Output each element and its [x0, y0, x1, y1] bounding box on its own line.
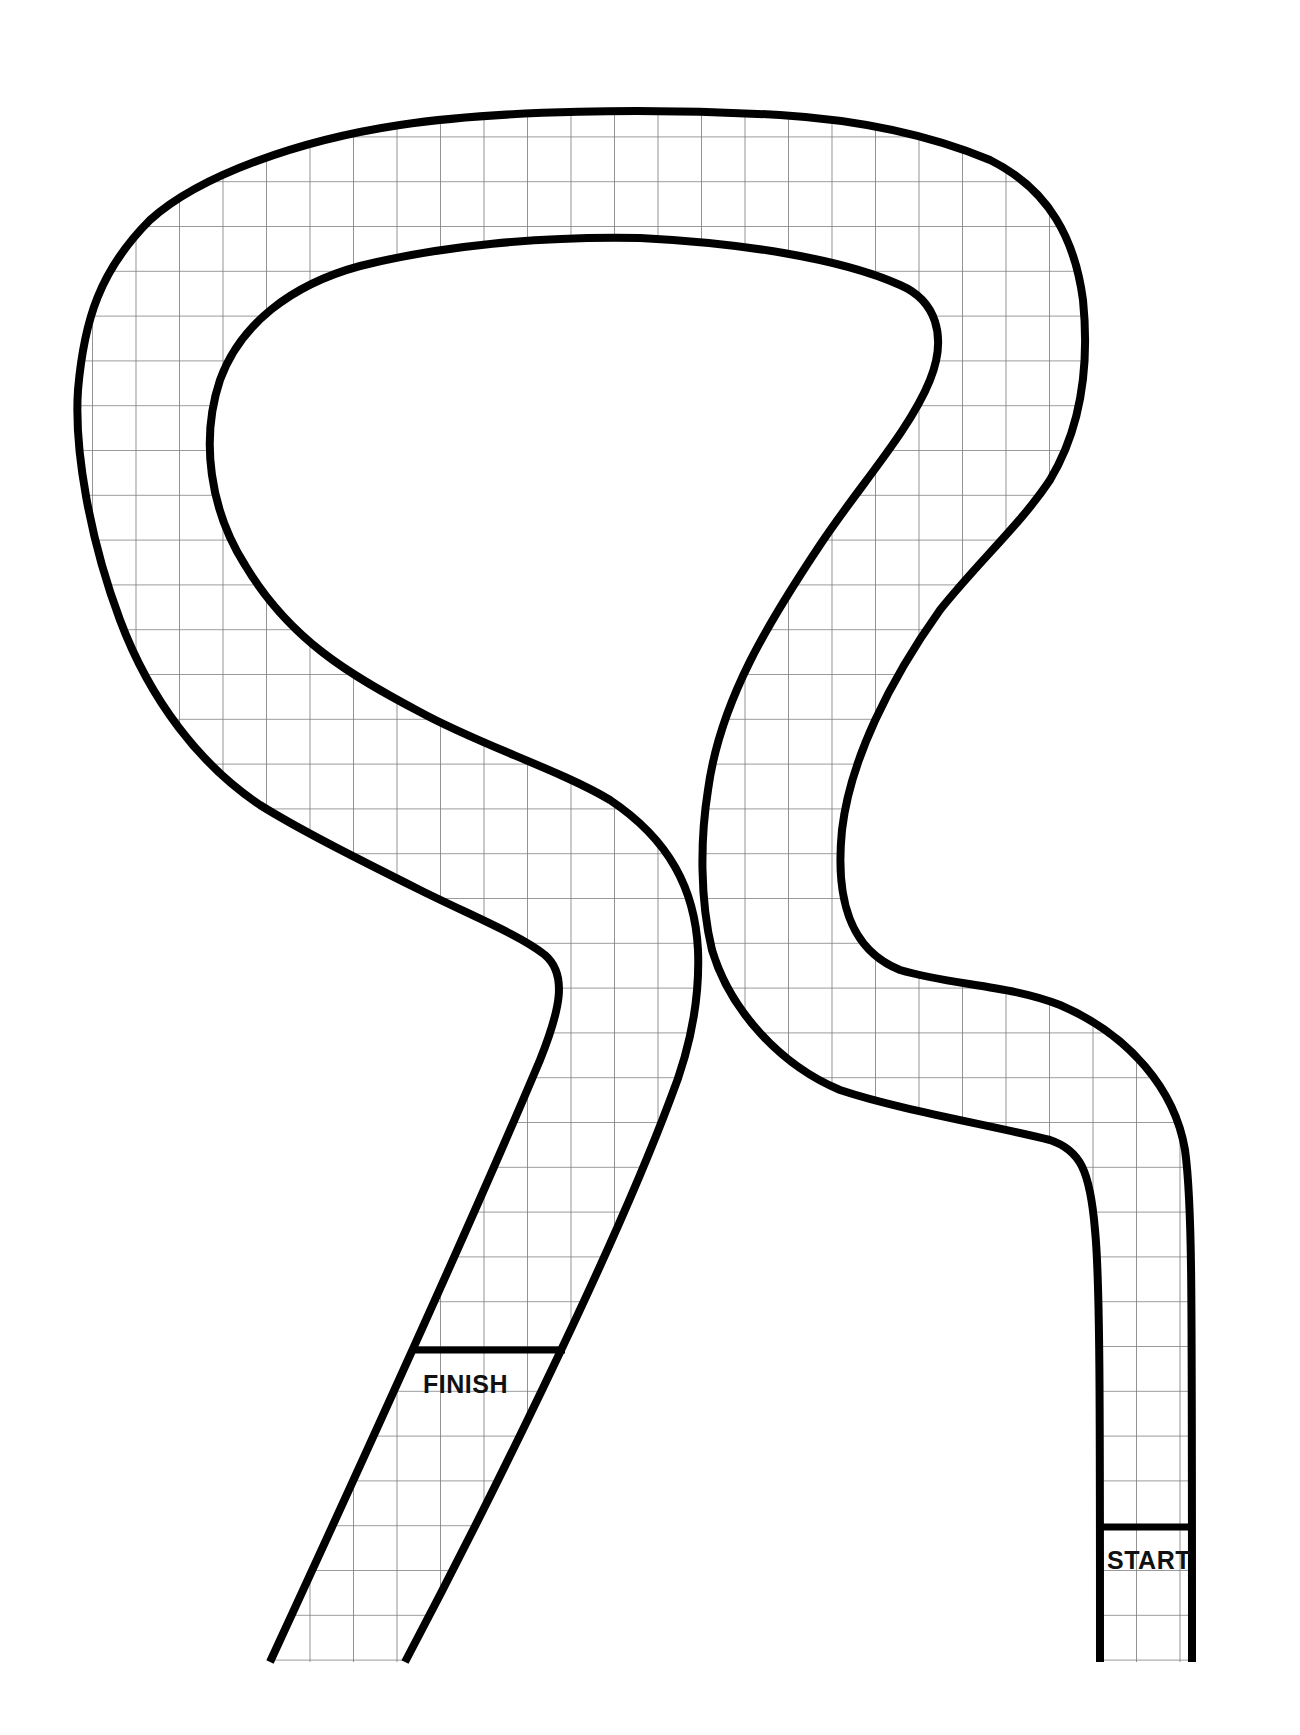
track-grid	[0, 0, 1300, 1735]
start-label: START	[1107, 1548, 1191, 1573]
race-track-board	[0, 0, 1300, 1735]
finish-label: FINISH	[423, 1372, 508, 1397]
